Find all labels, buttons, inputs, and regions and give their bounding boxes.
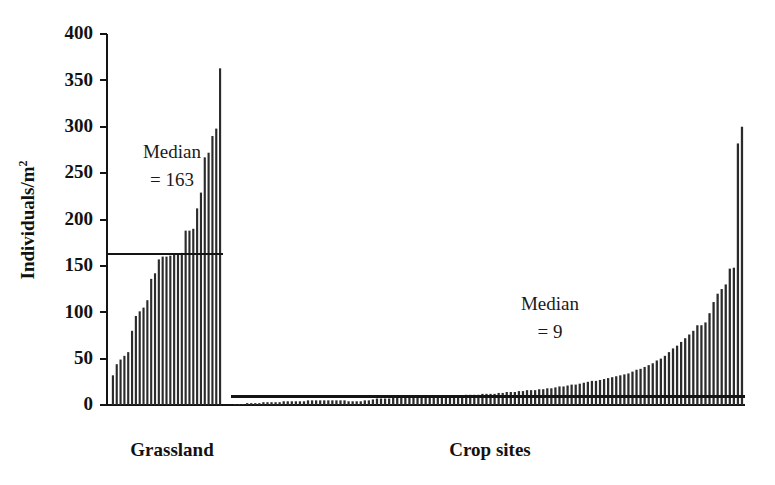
crop-bar <box>575 385 577 405</box>
crop-bar <box>712 302 714 405</box>
grassland-bars <box>112 68 221 405</box>
crop-bar <box>254 403 256 405</box>
crop-bar <box>331 400 333 405</box>
grassland-bar <box>135 316 137 405</box>
crop-bar <box>376 399 378 405</box>
crop-bar <box>591 381 593 405</box>
crop-bar <box>279 402 281 405</box>
chart-figure: 050100150200250300350400 Individuals/m2 … <box>0 0 775 485</box>
crop-bar <box>623 374 625 405</box>
crop-sites-bars <box>234 127 743 405</box>
crop-bar <box>339 400 341 405</box>
crop-bar <box>287 401 289 405</box>
crop-bar <box>510 392 512 405</box>
grassland-bar <box>116 364 118 405</box>
crop-bar <box>429 397 431 405</box>
crop-bar <box>315 400 317 405</box>
crop-bar <box>323 400 325 405</box>
crop-bar <box>311 400 313 405</box>
crop-bar <box>238 404 240 405</box>
grassland-bar <box>169 256 171 405</box>
crop-bar <box>242 404 244 405</box>
crop-bar <box>660 359 662 405</box>
crop-bar <box>356 401 358 405</box>
crop-bar <box>741 127 743 405</box>
crop-bar <box>717 294 719 405</box>
y-tick-label-400: 400 <box>65 22 94 43</box>
crop-bar <box>388 399 390 405</box>
crop-bar <box>307 400 309 405</box>
bar-chart-canvas: 050100150200250300350400 Individuals/m2 … <box>0 0 775 485</box>
grassland-bar <box>131 331 133 405</box>
crop-bar <box>283 401 285 405</box>
crop-bar <box>437 397 439 405</box>
grassland-bar <box>123 356 125 405</box>
grassland-bar <box>177 254 179 405</box>
crop-bar <box>688 335 690 405</box>
crop-bar <box>518 391 520 405</box>
crop-bar <box>652 363 654 405</box>
crop-bar <box>416 397 418 405</box>
crop-bar <box>250 403 252 405</box>
crop-bar <box>644 367 646 405</box>
crop-bar <box>266 402 268 405</box>
crop-bar <box>725 284 727 405</box>
crop-bar <box>656 360 658 405</box>
crop-bar <box>380 399 382 405</box>
y-axis-title: Individuals/m2 <box>16 161 38 280</box>
crop-bar <box>408 398 410 405</box>
crop-bar <box>631 372 633 405</box>
y-tick-label-100: 100 <box>65 301 94 322</box>
crop-bar <box>514 392 516 405</box>
group-label-crop-sites: Crop sites <box>449 439 530 460</box>
y-axis-title-text: Individuals/m2 <box>16 161 38 280</box>
grassland-bar <box>112 375 114 405</box>
crop-bar <box>696 325 698 405</box>
y-tick-label-200: 200 <box>65 208 94 229</box>
crop-median-label-line2: = 9 <box>538 321 563 342</box>
crop-bar <box>270 402 272 405</box>
y-tick-label-350: 350 <box>65 69 94 90</box>
group-labels: Grassland Crop sites <box>130 439 530 460</box>
crop-bar <box>506 392 508 405</box>
grassland-bar <box>204 157 206 405</box>
crop-bar <box>704 322 706 405</box>
crop-bar <box>721 289 723 405</box>
y-tick-label-150: 150 <box>65 254 94 275</box>
y-axis-title-main: Individuals/m <box>17 166 38 279</box>
group-label-grassland: Grassland <box>130 439 214 460</box>
crop-bar <box>400 398 402 405</box>
grassland-median-label-line1: Median <box>143 141 202 162</box>
grassland-bar <box>139 311 141 405</box>
y-axis-title-superscript: 2 <box>16 161 30 167</box>
crop-bar <box>619 375 621 405</box>
crop-bar <box>700 325 702 405</box>
grassland-bar <box>188 231 190 405</box>
crop-bar <box>571 385 573 405</box>
grassland-bar <box>173 255 175 405</box>
crop-bar <box>392 398 394 405</box>
crop-bar <box>303 401 305 405</box>
crop-bar <box>733 268 735 405</box>
grassland-bar <box>211 136 213 405</box>
y-axis-tick-labels: 050100150200250300350400 <box>65 22 94 414</box>
grassland-bar <box>192 229 194 405</box>
crop-bar <box>299 401 301 405</box>
crop-bar <box>258 403 260 405</box>
crop-bar <box>352 401 354 405</box>
grassland-bar <box>215 129 217 405</box>
crop-bar <box>291 401 293 405</box>
crop-bar <box>708 313 710 405</box>
crop-bar <box>611 377 613 405</box>
grassland-bar <box>120 360 122 405</box>
crop-bar <box>384 399 386 405</box>
crop-bar <box>599 380 601 405</box>
crop-bar <box>274 402 276 405</box>
crop-bar <box>368 400 370 405</box>
crop-bar <box>587 382 589 405</box>
crop-bar <box>498 393 500 405</box>
y-tick-label-250: 250 <box>65 161 94 182</box>
crop-bar <box>692 331 694 405</box>
crop-bar <box>583 383 585 405</box>
grassland-bar <box>219 68 221 405</box>
